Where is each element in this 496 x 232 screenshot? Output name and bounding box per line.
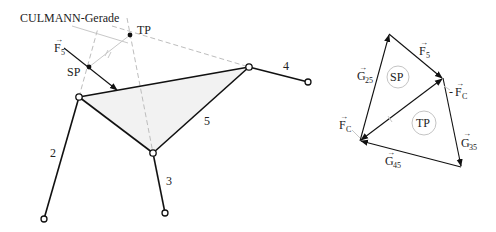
svg-text:-: - — [449, 85, 453, 99]
f5-label: → F 5 — [54, 35, 65, 57]
g25-label: → G 25 — [357, 63, 373, 85]
support-4 — [305, 79, 311, 85]
svg-text:C: C — [346, 125, 351, 134]
member-4-label: 4 — [283, 59, 289, 73]
svg-text:C: C — [462, 92, 467, 101]
svg-text:35: 35 — [469, 143, 477, 152]
node-a — [76, 94, 82, 100]
tp-circle-label: TP — [416, 116, 430, 130]
f5-vector-label: → F 5 — [419, 38, 430, 60]
tp-label: TP — [137, 23, 151, 37]
vector-g25 — [360, 35, 389, 141]
svg-text:F: F — [455, 85, 462, 99]
tp-to-node-b-dashed — [112, 26, 249, 67]
force-polygon: SP TP → G 25 → F 5 - → F C → F C → G 35 — [339, 34, 477, 170]
tp-point — [128, 33, 133, 38]
structure-figure: CULMANN-Gerade TP SP → F 5 2 3 4 5 — [20, 11, 311, 222]
member-2-label: 2 — [50, 146, 56, 160]
neg-fc-label: - → F C — [449, 79, 467, 101]
sp-point — [87, 65, 92, 70]
member-4 — [249, 67, 308, 82]
svg-text:45: 45 — [393, 161, 401, 170]
sp-circle-label: SP — [390, 70, 404, 84]
fc-leader — [352, 130, 360, 138]
member-5-label: 5 — [204, 114, 210, 128]
vector-fc-diagonal — [361, 79, 442, 140]
fc-label: → F C — [339, 112, 351, 134]
node-c — [150, 150, 156, 156]
svg-text:F: F — [339, 118, 346, 132]
culmann-label: CULMANN-Gerade — [20, 11, 119, 25]
svg-text:F: F — [419, 44, 426, 58]
g35-label: → G 35 — [461, 129, 477, 152]
parallel-mark-2 — [108, 52, 111, 58]
node-b — [246, 64, 252, 70]
member-3-label: 3 — [166, 174, 172, 188]
svg-text:25: 25 — [365, 76, 373, 85]
diagram-canvas: CULMANN-Gerade TP SP → F 5 2 3 4 5 SP TP… — [0, 0, 496, 232]
culmann-diagram: CULMANN-Gerade TP SP → F 5 2 3 4 5 SP TP… — [0, 0, 496, 232]
member-3 — [153, 153, 165, 213]
svg-text:5: 5 — [426, 51, 430, 60]
support-2 — [41, 216, 47, 222]
support-3 — [162, 210, 168, 216]
vector-g45 — [361, 141, 461, 167]
sp-label: SP — [67, 65, 81, 79]
svg-text:F: F — [54, 41, 61, 55]
svg-text:5: 5 — [61, 48, 65, 57]
